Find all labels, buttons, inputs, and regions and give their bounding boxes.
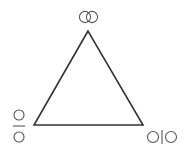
triangle bbox=[34, 31, 143, 125]
intersecting-circles-icon bbox=[79, 11, 97, 22]
separated-circles-icon bbox=[148, 130, 177, 144]
triangle-diagram bbox=[0, 0, 194, 155]
stacked-circles-fraction-icon bbox=[13, 110, 25, 142]
